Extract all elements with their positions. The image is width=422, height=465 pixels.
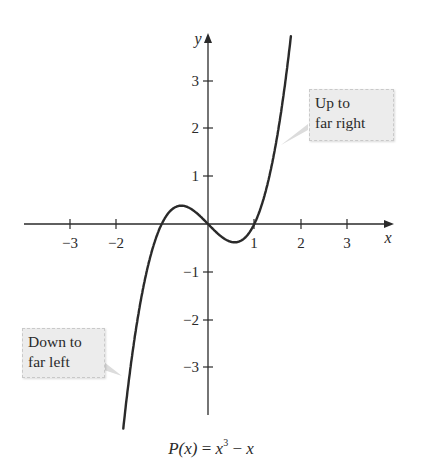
x-axis-label: x xyxy=(383,229,391,246)
callout-down-to-far-left: Down to far left xyxy=(22,328,105,378)
caption-lhs: P(x) xyxy=(168,439,197,458)
x-tick-label: −2 xyxy=(108,235,124,251)
callout-line: far right xyxy=(315,113,388,133)
caption-eq: = xyxy=(197,439,215,458)
left-callout-pointer xyxy=(104,362,122,376)
cubic-graph: −3 −2 1 2 3 x 3 2 1 −1 −2 −3 y xyxy=(0,0,422,465)
x-tick-label: −3 xyxy=(62,235,78,251)
y-tick-label: −3 xyxy=(183,359,199,375)
callout-line: Up to xyxy=(315,93,388,113)
callout-line: Down to xyxy=(28,332,99,352)
caption-tail: x xyxy=(246,439,254,458)
callout-up-to-far-right: Up to far right xyxy=(309,89,394,141)
caption-minus: − xyxy=(228,439,246,458)
caption-base: x xyxy=(216,439,224,458)
y-tick-label: 2 xyxy=(192,120,200,136)
x-axis-arrow-icon xyxy=(384,220,394,228)
x-tick-label: 2 xyxy=(297,235,305,251)
y-tick-label: −1 xyxy=(183,264,199,280)
y-axis-label: y xyxy=(192,30,202,48)
right-callout-pointer xyxy=(281,124,308,145)
x-tick-label: 3 xyxy=(343,235,351,251)
y-axis-arrow-icon xyxy=(204,33,212,43)
y-tick-label: 1 xyxy=(192,168,200,184)
y-tick-label: 3 xyxy=(192,73,200,89)
function-caption: P(x) = x3 − x xyxy=(0,437,422,459)
cubic-curve xyxy=(123,36,291,428)
callout-line: far left xyxy=(28,352,99,372)
x-tick-label: 1 xyxy=(250,235,258,251)
y-tick-label: −2 xyxy=(183,312,199,328)
